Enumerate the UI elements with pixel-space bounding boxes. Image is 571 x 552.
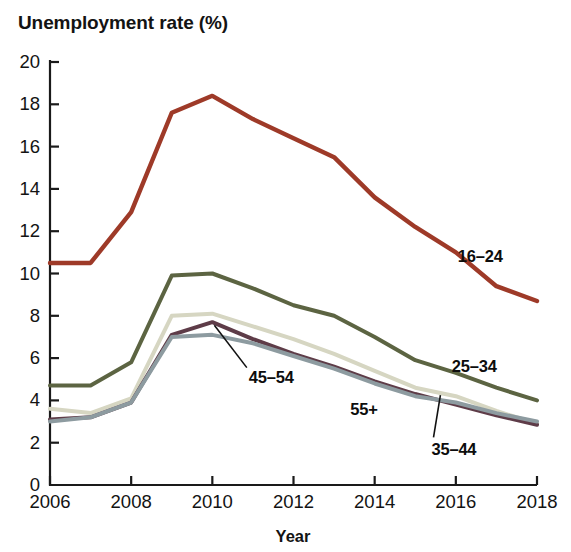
y-tick-label: 8 (6, 305, 40, 327)
y-tick-label: 16 (6, 136, 40, 158)
x-tick-label: 2006 (20, 491, 80, 513)
y-tick-label: 20 (6, 51, 40, 73)
x-tick-label: 2008 (101, 491, 161, 513)
y-tick-label: 12 (6, 220, 40, 242)
x-tick-label: 2016 (426, 491, 486, 513)
y-tick-label: 2 (6, 432, 40, 454)
axis-spine (50, 60, 537, 485)
y-tick-label: 18 (6, 93, 40, 115)
plot-area (0, 0, 571, 552)
x-axis-title: Year (233, 527, 353, 546)
series-label-25-34: 25–34 (452, 357, 497, 376)
x-tick-label: 2018 (507, 491, 567, 513)
series-label-55-: 55+ (350, 400, 377, 419)
y-tick-label: 6 (6, 347, 40, 369)
x-tick-label: 2012 (264, 491, 324, 513)
series-label-35-44: 35–44 (431, 440, 476, 459)
y-tick-label: 14 (6, 178, 40, 200)
series-label-16-24: 16–24 (458, 247, 503, 266)
chart-container: Unemployment rate (%) 02468101214161820 … (0, 0, 571, 552)
series-label-45-54: 45–54 (249, 368, 294, 387)
series-line-16-24 (50, 96, 537, 301)
x-tick-label: 2010 (182, 491, 242, 513)
x-tick-label: 2014 (345, 491, 405, 513)
y-tick-label: 4 (6, 389, 40, 411)
y-tick-label: 10 (6, 263, 40, 285)
